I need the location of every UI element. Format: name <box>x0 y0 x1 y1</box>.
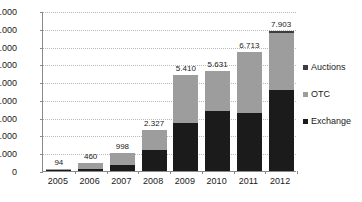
legend-item-auctions[interactable]: Auctions <box>303 62 362 72</box>
y-tick-mark <box>40 154 43 155</box>
x-tick-mark <box>75 171 76 174</box>
bar-group[interactable]: 94 <box>46 169 71 171</box>
legend-label: Exchange <box>311 117 351 126</box>
y-tick-mark <box>40 65 43 66</box>
bar-segment-exchange[interactable] <box>237 113 262 171</box>
y-tick-mark <box>40 136 43 137</box>
legend-swatch-icon <box>303 65 308 70</box>
bar-segment-exchange[interactable] <box>110 165 135 171</box>
bar-segment-exchange[interactable] <box>78 169 103 171</box>
chart-legend: AuctionsOTCExchange <box>303 62 362 143</box>
y-tick-label: 5.000 <box>0 79 17 88</box>
x-tick-mark <box>170 171 171 174</box>
x-tick-label: 2012 <box>260 176 300 186</box>
x-tick-mark <box>265 171 266 174</box>
bar-value-label: 7.903 <box>271 21 291 29</box>
bar-value-label: 460 <box>84 153 97 161</box>
bar-group[interactable]: 460 <box>78 163 103 171</box>
legend-item-exchange[interactable]: Exchange <box>303 116 362 126</box>
gridline <box>43 12 296 13</box>
y-tick-label: 0 <box>0 168 17 177</box>
y-tick-mark <box>40 172 43 173</box>
bar-segment-otc[interactable] <box>142 130 167 151</box>
x-tick-mark <box>234 171 235 174</box>
bar-group[interactable]: 5.410 <box>173 75 198 171</box>
bar-group[interactable]: 7.903 <box>269 31 294 171</box>
bar-segment-exchange[interactable] <box>269 90 294 171</box>
bar-segment-exchange[interactable] <box>173 123 198 171</box>
legend-label: Auctions <box>311 63 346 72</box>
bar-segment-exchange[interactable] <box>46 170 71 171</box>
y-tick-mark <box>40 119 43 120</box>
x-tick-mark <box>138 171 139 174</box>
bar-segment-otc[interactable] <box>205 71 230 111</box>
legend-item-otc[interactable]: OTC <box>303 89 362 99</box>
plot-area: 944609982.3275.4105.6316.7137.903 <box>42 12 296 172</box>
y-tick-label: 2.000 <box>0 132 17 141</box>
legend-swatch-icon <box>303 92 308 97</box>
y-tick-mark <box>40 12 43 13</box>
bar-segment-otc[interactable] <box>269 33 294 90</box>
bar-segment-otc[interactable] <box>110 153 135 165</box>
bar-value-label: 6.713 <box>239 42 259 50</box>
y-tick-label: 7.000 <box>0 44 17 53</box>
bar-value-label: 94 <box>54 159 63 167</box>
bar-group[interactable]: 998 <box>110 153 135 171</box>
gridline <box>43 30 296 31</box>
y-tick-mark <box>40 101 43 102</box>
y-tick-label: 1.000 <box>0 150 17 159</box>
bar-group[interactable]: 5.631 <box>205 71 230 171</box>
y-tick-label: 3.000 <box>0 115 17 124</box>
legend-swatch-icon <box>303 119 308 124</box>
bar-segment-otc[interactable] <box>237 52 262 113</box>
x-tick-mark <box>107 171 108 174</box>
y-tick-mark <box>40 83 43 84</box>
bar-value-label: 2.327 <box>144 120 164 128</box>
x-tick-mark <box>297 171 298 174</box>
bar-group[interactable]: 2.327 <box>142 130 167 171</box>
bar-value-label: 5.631 <box>208 61 228 69</box>
bar-group[interactable]: 6.713 <box>237 52 262 171</box>
bar-segment-exchange[interactable] <box>142 150 167 171</box>
x-tick-mark <box>202 171 203 174</box>
y-tick-label: 9.000 <box>0 8 17 17</box>
bar-segment-otc[interactable] <box>173 75 198 123</box>
stacked-bar-chart: 9.0008.0007.0006.0005.0004.0003.0002.000… <box>0 0 362 202</box>
y-tick-mark <box>40 30 43 31</box>
bar-value-label: 5.410 <box>176 65 196 73</box>
y-tick-label: 6.000 <box>0 61 17 70</box>
y-tick-mark <box>40 48 43 49</box>
y-tick-label: 4.000 <box>0 97 17 106</box>
legend-label: OTC <box>311 90 330 99</box>
bar-value-label: 998 <box>116 143 129 151</box>
bar-segment-exchange[interactable] <box>205 111 230 171</box>
y-tick-label: 8.000 <box>0 26 17 35</box>
